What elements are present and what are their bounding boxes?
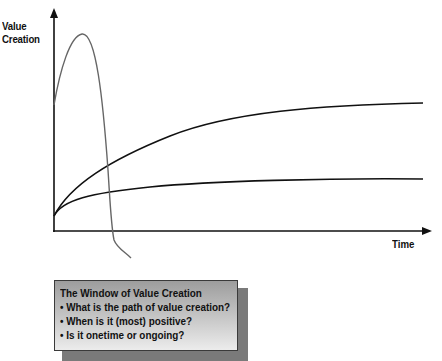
callout-item: •When is it (most) positive? — [60, 314, 219, 328]
bullet-icon: • — [60, 315, 63, 327]
callout-title: The Window of Value Creation — [60, 286, 219, 300]
x-axis-label: Time — [392, 238, 414, 250]
callout-item: •What is the path of value creation? — [60, 300, 219, 314]
y-axis-arrow-icon — [50, 8, 58, 18]
x-axis-arrow-icon — [422, 227, 432, 235]
callout-box: The Window of Value Creation •What is th… — [54, 280, 238, 351]
bullet-icon: • — [60, 301, 63, 313]
spike-curve — [54, 34, 131, 258]
callout-item: •Is it onetime or ongoing? — [60, 328, 219, 342]
bullet-icon: • — [60, 329, 63, 341]
